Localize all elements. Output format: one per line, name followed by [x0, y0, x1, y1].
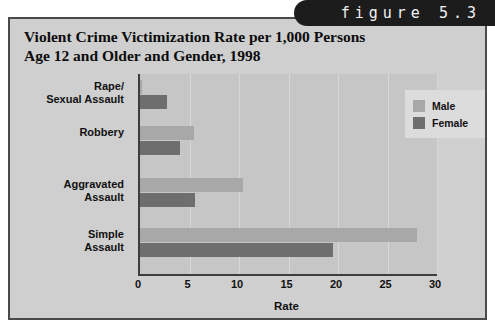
bar-robbery-female	[140, 141, 180, 155]
legend-swatch-male-icon	[413, 100, 425, 112]
x-tick-label-20: 20	[330, 278, 342, 290]
x-tick-label-5: 5	[184, 278, 190, 290]
figure-number-label: figure 5.3	[341, 4, 481, 22]
bar-rape-sexual-assault-female	[140, 95, 167, 109]
x-tick-label-0: 0	[135, 278, 141, 290]
category-label-simple-assault: Simple Assault	[84, 228, 124, 254]
chart-plot-area: Male Female	[138, 74, 437, 274]
bar-simple-assault-female	[140, 243, 333, 257]
category-label-aggravated-assault: Aggravated Assault	[63, 178, 124, 204]
category-label-robbery: Robbery	[79, 126, 124, 139]
x-tick-label-25: 25	[379, 278, 391, 290]
legend-item-male: Male	[413, 98, 487, 113]
x-tick-label-30: 30	[429, 278, 441, 290]
bar-rape-sexual-assault-male	[140, 80, 142, 94]
figure-number-tab: figure 5.3	[294, 0, 495, 26]
gridline-25	[388, 74, 389, 274]
legend-swatch-female-icon	[413, 117, 425, 129]
legend-label-female: Female	[432, 117, 468, 129]
bar-robbery-male	[140, 126, 194, 140]
figure-panel: Violent Crime Victimization Rate per 1,0…	[8, 17, 487, 320]
bar-aggravated-assault-female	[140, 193, 195, 207]
gridline-20	[338, 74, 339, 274]
chart-title: Violent Crime Victimization Rate per 1,0…	[24, 27, 454, 65]
category-label-rape-sexual-assault: Rape/ Sexual Assault	[46, 80, 124, 106]
x-axis-tick-labels: 051015202530	[138, 278, 435, 296]
legend-item-female: Female	[413, 115, 487, 130]
x-tick-label-15: 15	[280, 278, 292, 290]
x-axis-line	[138, 274, 437, 276]
x-tick-label-10: 10	[231, 278, 243, 290]
chart-plot-frame: Rape/ Sexual Assault Robbery Aggravated …	[28, 74, 471, 306]
chart-legend: Male Female	[405, 90, 487, 138]
bar-aggravated-assault-male	[140, 178, 243, 192]
bar-simple-assault-male	[140, 228, 417, 242]
legend-label-male: Male	[432, 100, 455, 112]
x-axis-title: Rate	[138, 300, 435, 312]
y-axis-category-labels: Rape/ Sexual Assault Robbery Aggravated …	[28, 74, 130, 274]
